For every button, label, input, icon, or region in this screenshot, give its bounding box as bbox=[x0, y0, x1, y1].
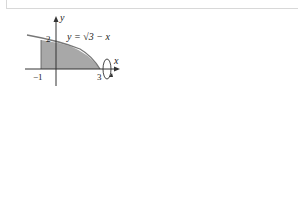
top-caption-box bbox=[6, 0, 298, 9]
figure-1-graph: y x 2 −1 3 y = √3 − x bbox=[0, 14, 149, 104]
equation-label: y = √3 − x bbox=[66, 31, 110, 42]
svg-text:2: 2 bbox=[46, 34, 51, 44]
svg-text:3: 3 bbox=[97, 72, 102, 82]
y-axis-label: y bbox=[59, 14, 65, 23]
figure-1: y x 2 −1 3 y = √3 − x bbox=[0, 14, 149, 118]
x-axis-label: x bbox=[113, 55, 119, 66]
figure-2 bbox=[149, 14, 298, 118]
svg-text:−1: −1 bbox=[33, 72, 43, 82]
figure-2-graph bbox=[149, 14, 298, 104]
